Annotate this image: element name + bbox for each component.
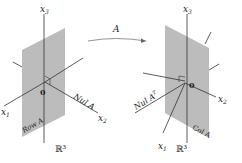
figure-canvas: x3 x1 x2 0 Nul A Row A ℝ³ A x3 x2 x1 0 N… xyxy=(0,0,242,163)
x3-label: x3 xyxy=(183,4,192,15)
arrow-head-icon xyxy=(141,39,146,44)
back-axis-segment-right xyxy=(209,64,219,70)
x1-label: x1 xyxy=(158,141,167,152)
null-space-label: Nul A xyxy=(71,91,96,111)
r3-label: ℝ³ xyxy=(176,144,187,154)
fundamental-subspaces-diagram: x3 x1 x2 0 Nul A Row A ℝ³ A x3 x2 x1 0 N… xyxy=(0,0,242,163)
back-axis-segment-top xyxy=(205,32,211,44)
x1-label: x1 xyxy=(1,107,10,118)
left-null-space-label: Nul AT xyxy=(131,88,161,112)
x3-label: x3 xyxy=(40,4,49,15)
left-figure: x3 x1 x2 0 Nul A Row A ℝ³ xyxy=(1,4,107,154)
origin-label: 0 xyxy=(189,80,195,90)
mapping-arrow: A xyxy=(88,24,146,43)
x2-label: x2 xyxy=(218,94,227,105)
x2-label: x2 xyxy=(98,113,107,124)
back-axis-segment xyxy=(13,62,22,67)
r3-label: ℝ³ xyxy=(55,144,66,154)
origin-label: 0 xyxy=(40,87,46,97)
right-figure: x3 x2 x1 0 Nul AT Col A ℝ³ xyxy=(131,4,228,154)
matrix-label: A xyxy=(112,24,120,34)
arrow-line xyxy=(88,39,146,42)
